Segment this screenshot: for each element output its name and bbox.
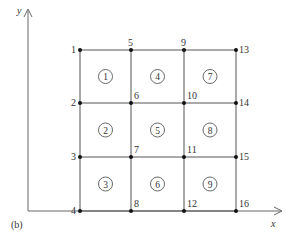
element-label: 1 bbox=[103, 72, 108, 82]
node-point bbox=[234, 155, 238, 159]
element-label: 2 bbox=[103, 126, 108, 136]
element-label: 4 bbox=[155, 72, 160, 82]
node-label: 14 bbox=[239, 97, 249, 108]
x-axis-label: x bbox=[270, 218, 276, 229]
node-label: 5 bbox=[128, 37, 133, 48]
mesh: 12345678912345678910111213141516 bbox=[71, 37, 249, 216]
node-point bbox=[129, 155, 133, 159]
node-point bbox=[129, 101, 133, 105]
node-label: 11 bbox=[187, 144, 197, 155]
node-label: 7 bbox=[134, 144, 139, 155]
node-label: 12 bbox=[187, 198, 197, 209]
node-point bbox=[182, 48, 186, 52]
node-label: 16 bbox=[239, 198, 249, 209]
node-label: 8 bbox=[134, 198, 139, 209]
node-point bbox=[182, 155, 186, 159]
node-label: 10 bbox=[187, 90, 197, 101]
node-label: 9 bbox=[181, 37, 186, 48]
node-point bbox=[234, 48, 238, 52]
element-label: 5 bbox=[155, 126, 160, 136]
node-point bbox=[78, 101, 82, 105]
element-label: 8 bbox=[208, 126, 213, 136]
node-label: 2 bbox=[71, 97, 76, 108]
node-point bbox=[129, 209, 133, 213]
element-label: 3 bbox=[103, 180, 108, 190]
element-label: 9 bbox=[208, 180, 213, 190]
node-point bbox=[78, 48, 82, 52]
node-point bbox=[234, 101, 238, 105]
node-label: 13 bbox=[239, 44, 249, 55]
finite-element-mesh-diagram: y x (b) 12345678912345678910111213141516 bbox=[0, 0, 295, 238]
figure-label: (b) bbox=[11, 219, 23, 231]
node-point bbox=[78, 209, 82, 213]
element-label: 6 bbox=[155, 180, 160, 190]
node-label: 1 bbox=[71, 44, 76, 55]
node-point bbox=[182, 101, 186, 105]
element-label: 7 bbox=[208, 72, 213, 82]
y-axis-label: y bbox=[16, 5, 22, 16]
node-point bbox=[234, 209, 238, 213]
node-label: 6 bbox=[134, 90, 139, 101]
node-point bbox=[182, 209, 186, 213]
node-label: 3 bbox=[71, 151, 76, 162]
node-point bbox=[129, 48, 133, 52]
node-label: 15 bbox=[239, 151, 249, 162]
node-point bbox=[78, 155, 82, 159]
node-label: 4 bbox=[71, 205, 76, 216]
